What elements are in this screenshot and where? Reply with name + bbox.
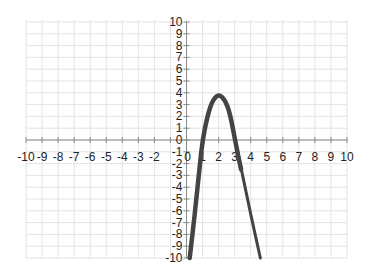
parabola-curve xyxy=(190,96,241,258)
x-tick-label: -4 xyxy=(117,150,128,164)
x-tick-label: 7 xyxy=(296,150,303,164)
coordinate-plane-chart: -10-9-8-7-6-5-4-3-2012345678910 10987654… xyxy=(0,0,371,271)
x-tick-label: 4 xyxy=(247,150,254,164)
x-tick-label: -7 xyxy=(69,150,80,164)
x-tick-label: 9 xyxy=(328,150,335,164)
x-tick-label: 10 xyxy=(340,150,354,164)
x-tick-label: 6 xyxy=(279,150,286,164)
y-tick-label: -10 xyxy=(165,251,183,265)
x-tick-label: -3 xyxy=(133,150,144,164)
x-tick-label: 0 xyxy=(184,150,191,164)
x-tick-label: 5 xyxy=(263,150,270,164)
x-tick-label: -8 xyxy=(53,150,64,164)
x-tick-label: -9 xyxy=(37,150,48,164)
x-tick-label: -5 xyxy=(101,150,112,164)
plotted-curves xyxy=(190,96,261,258)
x-tick-label: -6 xyxy=(85,150,96,164)
x-tick-label: -2 xyxy=(149,150,160,164)
x-tick-label: 2 xyxy=(215,150,222,164)
x-tick-label: 8 xyxy=(312,150,319,164)
x-tick-label: -10 xyxy=(17,150,35,164)
